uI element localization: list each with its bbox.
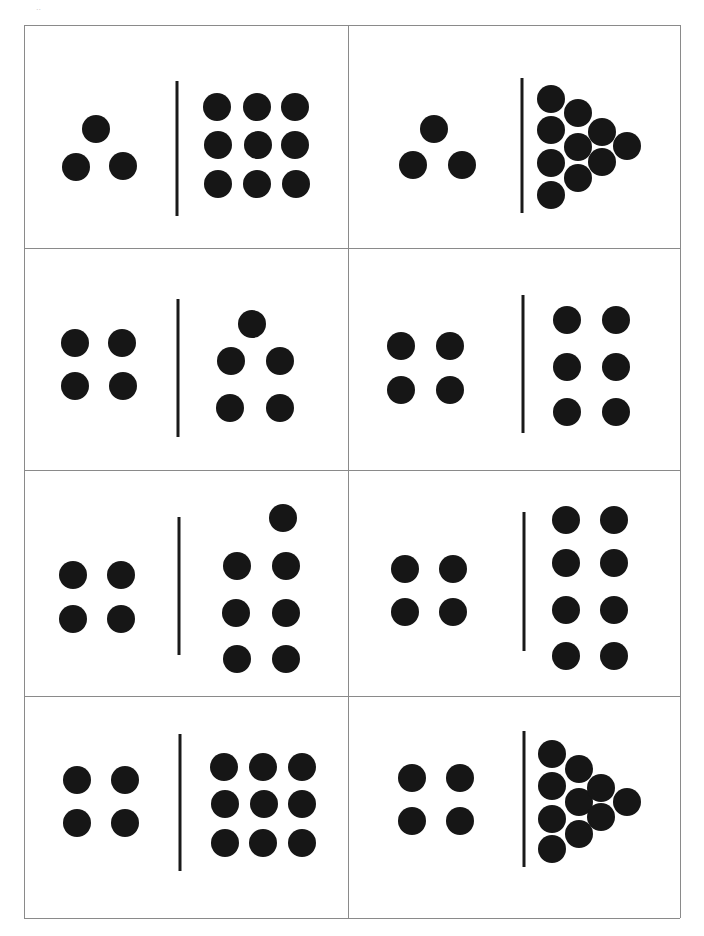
- right-group-dot: [538, 835, 566, 863]
- right-group-dot: [552, 642, 580, 670]
- right-group-dot: [223, 645, 251, 673]
- left-group-dot: [62, 153, 90, 181]
- right-group-dot: [600, 596, 628, 624]
- left-group-dot: [398, 807, 426, 835]
- right-group-dot: [537, 181, 565, 209]
- right-group-dot: [587, 774, 615, 802]
- left-group-dot: [59, 605, 87, 633]
- right-group-dot: [538, 740, 566, 768]
- worksheet: ..: [0, 0, 704, 936]
- right-group-dot: [250, 790, 278, 818]
- row-divider-3: [24, 696, 680, 697]
- corner-mark: ..: [36, 2, 41, 12]
- right-group-dot: [203, 93, 231, 121]
- right-group-dot: [243, 93, 271, 121]
- right-group-dot: [272, 552, 300, 580]
- right-group-dot: [269, 504, 297, 532]
- card-divider-line: [523, 512, 526, 651]
- left-group-dot: [107, 561, 135, 589]
- right-group-dot: [281, 93, 309, 121]
- right-group-dot: [537, 149, 565, 177]
- right-group-dot: [288, 829, 316, 857]
- right-group-dot: [538, 772, 566, 800]
- right-group-dot: [537, 85, 565, 113]
- frame-top-border: [24, 25, 680, 26]
- frame-left-border: [24, 25, 25, 918]
- left-group-dot: [439, 598, 467, 626]
- left-group-dot: [107, 605, 135, 633]
- left-group-dot: [399, 151, 427, 179]
- right-group-dot: [288, 790, 316, 818]
- right-group-dot: [249, 829, 277, 857]
- card-divider-line: [176, 81, 179, 216]
- right-group-dot: [216, 394, 244, 422]
- right-group-dot: [266, 347, 294, 375]
- right-group-dot: [588, 148, 616, 176]
- left-group-dot: [391, 555, 419, 583]
- right-group-dot: [249, 753, 277, 781]
- right-group-dot: [211, 829, 239, 857]
- right-group-dot: [564, 99, 592, 127]
- left-group-dot: [436, 332, 464, 360]
- left-group-dot: [436, 376, 464, 404]
- card-divider-line: [179, 734, 182, 871]
- left-group-dot: [109, 372, 137, 400]
- right-group-dot: [281, 131, 309, 159]
- right-group-dot: [222, 599, 250, 627]
- left-group-dot: [111, 766, 139, 794]
- right-group-dot: [223, 552, 251, 580]
- card-divider-line: [523, 731, 526, 867]
- left-group-dot: [109, 152, 137, 180]
- card-divider-line: [177, 299, 180, 437]
- right-group-dot: [552, 506, 580, 534]
- right-group-dot: [552, 549, 580, 577]
- right-group-dot: [600, 506, 628, 534]
- right-group-dot: [587, 803, 615, 831]
- right-group-dot: [211, 790, 239, 818]
- right-group-dot: [588, 118, 616, 146]
- right-group-dot: [243, 170, 271, 198]
- left-group-dot: [387, 376, 415, 404]
- right-group-dot: [244, 131, 272, 159]
- card-divider-line: [178, 517, 181, 655]
- card-divider-line: [522, 295, 525, 433]
- frame-bottom-border: [24, 918, 680, 919]
- column-divider: [348, 25, 349, 918]
- right-group-dot: [600, 642, 628, 670]
- left-group-dot: [420, 115, 448, 143]
- right-group-dot: [538, 805, 566, 833]
- left-group-dot: [61, 372, 89, 400]
- left-group-dot: [391, 598, 419, 626]
- left-group-dot: [448, 151, 476, 179]
- left-group-dot: [63, 809, 91, 837]
- right-group-dot: [204, 170, 232, 198]
- right-group-dot: [238, 310, 266, 338]
- right-group-dot: [552, 596, 580, 624]
- right-group-dot: [204, 131, 232, 159]
- left-group-dot: [82, 115, 110, 143]
- left-group-dot: [439, 555, 467, 583]
- left-group-dot: [59, 561, 87, 589]
- right-group-dot: [537, 116, 565, 144]
- right-group-dot: [272, 645, 300, 673]
- right-group-dot: [272, 599, 300, 627]
- card-divider-line: [521, 78, 524, 213]
- right-group-dot: [553, 398, 581, 426]
- right-group-dot: [602, 306, 630, 334]
- right-group-dot: [613, 132, 641, 160]
- right-group-dot: [602, 353, 630, 381]
- left-group-dot: [108, 329, 136, 357]
- left-group-dot: [111, 809, 139, 837]
- left-group-dot: [387, 332, 415, 360]
- left-group-dot: [446, 764, 474, 792]
- right-group-dot: [553, 353, 581, 381]
- row-divider-2: [24, 470, 680, 471]
- left-group-dot: [446, 807, 474, 835]
- right-group-dot: [266, 394, 294, 422]
- right-group-dot: [613, 788, 641, 816]
- left-group-dot: [61, 329, 89, 357]
- right-group-dot: [217, 347, 245, 375]
- right-group-dot: [600, 549, 628, 577]
- right-group-dot: [553, 306, 581, 334]
- right-group-dot: [282, 170, 310, 198]
